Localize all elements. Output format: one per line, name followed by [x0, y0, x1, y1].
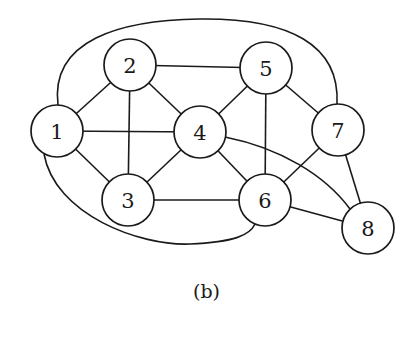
- node-label: 2: [123, 54, 136, 78]
- graph-diagram: 12345678: [0, 0, 413, 360]
- node-label: 1: [50, 120, 63, 144]
- node-3: 3: [102, 174, 154, 226]
- node-2: 2: [104, 39, 156, 91]
- node-5: 5: [240, 42, 292, 94]
- node-label: 5: [259, 57, 272, 81]
- node-label: 8: [361, 217, 374, 241]
- node-label: 7: [331, 119, 344, 143]
- node-4: 4: [174, 106, 226, 158]
- node-label: 3: [121, 189, 134, 213]
- node-6: 6: [239, 174, 291, 226]
- node-label: 4: [193, 121, 206, 145]
- node-1: 1: [31, 105, 83, 157]
- node-8: 8: [342, 202, 394, 254]
- node-label: 6: [258, 189, 271, 213]
- nodes-layer: 12345678: [31, 39, 394, 254]
- node-7: 7: [312, 104, 364, 156]
- figure-caption: (b): [0, 280, 413, 302]
